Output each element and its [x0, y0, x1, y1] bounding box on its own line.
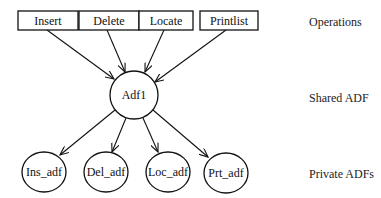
private-node-del-adf: Del_adf: [84, 152, 128, 192]
edge-printlist-adf1: [155, 30, 226, 82]
shared-node-adf1: Adf1: [110, 71, 158, 119]
node-label: Insert: [34, 14, 62, 28]
row-label-shared: Shared ADF: [309, 91, 369, 105]
row-label-operations: Operations: [309, 15, 362, 29]
row-label-private: Private ADFs: [309, 167, 374, 181]
operation-node-insert: Insert: [18, 11, 78, 30]
private-node-ins-adf: Ins_adf: [22, 152, 66, 192]
private-node-prt-adf: Prt_adf: [204, 153, 248, 193]
edge-insert-adf1: [47, 30, 114, 79]
node-label: Delete: [93, 14, 124, 28]
edge-delete-adf1: [107, 30, 125, 72]
edge-adf1-prt: [153, 110, 208, 157]
node-label: Loc_adf: [148, 165, 188, 179]
edge-adf1-loc: [143, 118, 158, 152]
private-node-loc-adf: Loc_adf: [146, 152, 190, 192]
node-label: Ins_adf: [26, 165, 62, 179]
edge-adf1-del: [112, 118, 126, 152]
edge-adf1-ins: [60, 110, 115, 155]
node-label: Prt_adf: [208, 166, 243, 180]
adf-diagram: Insert Delete Locate Printlist Adf1 Ins_…: [0, 0, 381, 198]
node-label: Del_adf: [87, 165, 126, 179]
node-label: Printlist: [210, 14, 249, 28]
operation-node-delete: Delete: [79, 11, 139, 30]
node-label: Locate: [150, 14, 183, 28]
node-label: Adf1: [122, 88, 147, 102]
operation-node-printlist: Printlist: [200, 11, 258, 30]
edge-locate-adf1: [145, 30, 164, 72]
operation-node-locate: Locate: [139, 11, 193, 30]
